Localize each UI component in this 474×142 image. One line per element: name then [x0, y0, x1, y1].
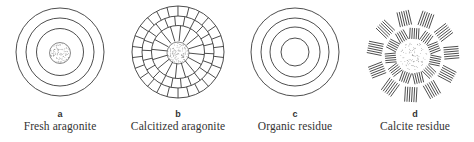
stipple-dot — [170, 60, 171, 61]
radial-segment — [208, 72, 216, 78]
stipple-dot — [175, 55, 176, 56]
panel-b-ring-inner — [152, 26, 205, 79]
radial-segment — [132, 46, 142, 47]
stipple-dot — [59, 49, 60, 50]
stipple-dot — [57, 58, 58, 59]
radial-segment — [188, 57, 202, 64]
stipple-dot — [170, 48, 171, 49]
radial-segment — [161, 76, 165, 84]
stipple-dot — [173, 55, 174, 56]
stipple-dot — [409, 52, 410, 53]
stipple-dot — [414, 51, 415, 52]
radial-segment — [148, 79, 155, 86]
stipple-dot — [407, 60, 408, 61]
stipple-dot — [53, 50, 54, 51]
stipple-dot — [176, 54, 177, 55]
stipple-dot — [51, 53, 52, 54]
stipple-dot — [170, 56, 171, 57]
stipple-dot — [170, 53, 171, 54]
stipple-dot — [412, 50, 413, 51]
stipple-dot — [170, 51, 171, 52]
panel-a-letter: a — [0, 109, 120, 119]
stipple-dot — [416, 66, 417, 67]
stipple-dot — [181, 45, 182, 46]
stipple-dot — [410, 59, 411, 60]
radial-segment — [135, 36, 144, 40]
calcite-dash — [419, 72, 421, 83]
stipple-dot — [407, 63, 408, 64]
stipple-dot — [53, 53, 54, 54]
radial-segment — [171, 78, 173, 87]
calcite-dash — [371, 68, 385, 73]
stipple-dot — [414, 66, 415, 67]
panel-c-figure — [251, 8, 339, 96]
stipple-dot — [412, 54, 413, 55]
radial-segment — [212, 65, 221, 69]
stipple-dot — [182, 61, 183, 62]
stipple-dot — [178, 58, 179, 59]
stipple-dot — [50, 55, 51, 56]
stipple-dot — [177, 47, 178, 48]
radial-segment — [190, 20, 194, 28]
calcite-dash — [430, 57, 441, 59]
stipple-dot — [172, 61, 173, 62]
stipple-dot — [180, 61, 181, 62]
calcite-dash — [425, 13, 430, 27]
radial-segment — [165, 19, 169, 28]
stipple-dot — [426, 54, 427, 55]
calcite-dash — [397, 33, 402, 43]
stipple-dot — [170, 49, 171, 50]
stipple-dot — [60, 44, 61, 45]
stipple-dot — [174, 45, 175, 46]
stipple-dot — [418, 61, 419, 62]
calcite-dash — [385, 60, 396, 61]
panel-d-core-stipple — [400, 43, 427, 70]
calcite-dash — [386, 47, 396, 52]
radial-segment — [157, 11, 162, 20]
stipple-dot — [168, 55, 169, 56]
stipple-dot — [405, 45, 406, 46]
stipple-dot — [64, 51, 65, 52]
stipple-dot — [181, 57, 182, 58]
stipple-dot — [52, 53, 53, 54]
stipple-dot — [170, 50, 171, 51]
stipple-dot — [411, 44, 412, 45]
radial-segment — [180, 78, 181, 87]
stipple-dot — [185, 49, 186, 50]
stipple-dot — [419, 45, 420, 46]
panel-b-figure — [132, 6, 224, 98]
calcite-dash — [370, 66, 384, 71]
radial-segment — [185, 61, 195, 73]
panel-d-figure — [367, 10, 460, 102]
calcite-dash — [416, 87, 417, 102]
stipple-dot — [64, 48, 65, 49]
stipple-dot — [177, 43, 178, 44]
radial-segment — [135, 65, 144, 69]
stipple-dot — [417, 55, 418, 56]
stipple-dot — [405, 47, 406, 48]
stipple-dot — [402, 50, 403, 51]
radial-segment — [204, 44, 213, 46]
stipple-dot — [64, 49, 65, 50]
stipple-dot — [65, 51, 66, 52]
calcite-dash — [409, 87, 410, 102]
stipple-dot — [61, 54, 62, 55]
panel-c-letter: c — [235, 109, 355, 119]
stipple-dot — [416, 60, 417, 61]
stipple-dot — [414, 69, 415, 70]
stipple-dot — [412, 55, 413, 56]
stipple-dot — [182, 49, 183, 50]
stipple-dot — [187, 51, 188, 52]
stipple-dot — [66, 48, 67, 49]
stipple-dot — [173, 59, 174, 60]
stipple-dot — [413, 61, 414, 62]
stipple-dot — [414, 61, 415, 62]
stipple-dot — [176, 51, 177, 52]
stipple-dot — [66, 51, 67, 52]
radial-segment — [161, 31, 171, 43]
calcite-dash — [443, 46, 458, 47]
panel-c-ring-4 — [281, 38, 309, 66]
stipple-dot — [175, 58, 176, 59]
stipple-dot — [178, 60, 179, 61]
radial-segment — [152, 49, 167, 51]
